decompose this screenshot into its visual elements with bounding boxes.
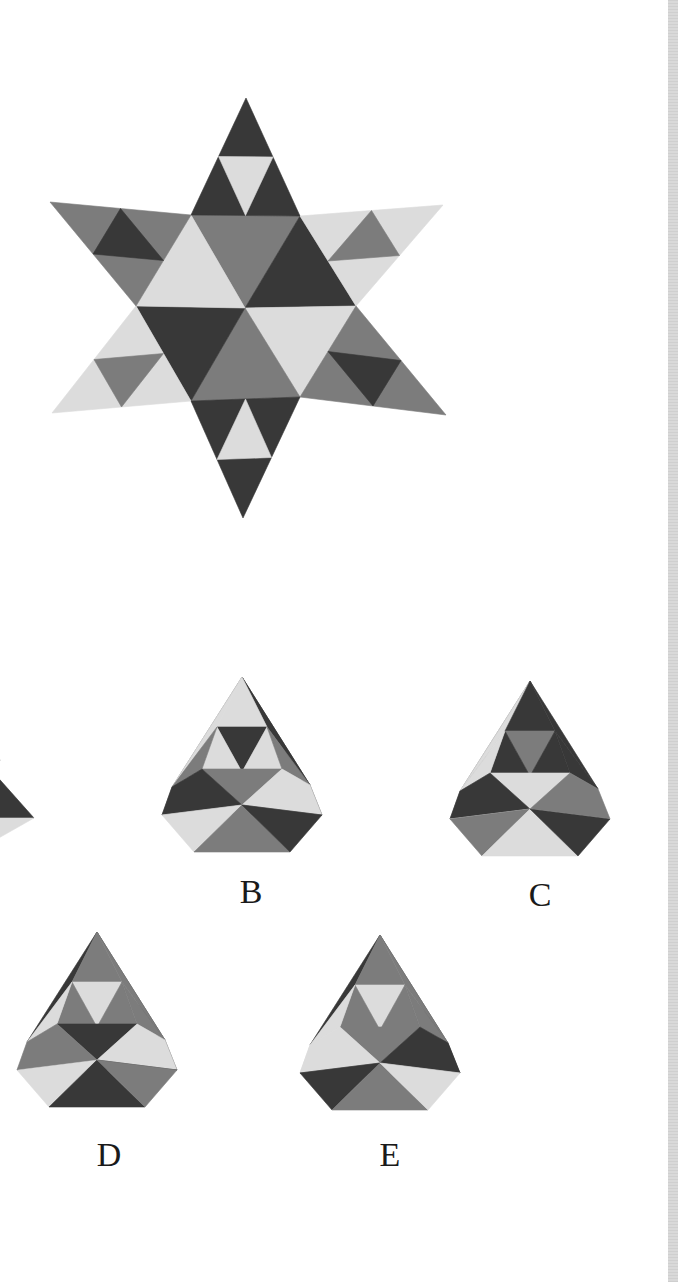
option-c-label: C <box>529 878 552 912</box>
option-e-pyramid[interactable] <box>300 935 460 1110</box>
option-e-label: E <box>380 1138 401 1172</box>
puzzle-canvas <box>0 0 681 1282</box>
option-a-pyramid[interactable] <box>0 700 34 860</box>
face-top <box>72 932 122 982</box>
option-c-pyramid[interactable] <box>450 681 610 856</box>
partial-face-light <box>0 818 34 860</box>
face-top <box>505 681 555 731</box>
partial-face-dark <box>0 735 34 818</box>
option-d-pyramid[interactable] <box>17 932 177 1107</box>
star-net <box>50 98 446 518</box>
face-top <box>217 677 267 727</box>
option-b-label: B <box>240 875 263 909</box>
page-edge-strip <box>668 0 678 1282</box>
option-b-pyramid[interactable] <box>162 677 322 852</box>
face-top <box>355 935 405 985</box>
option-d-label: D <box>97 1138 122 1172</box>
